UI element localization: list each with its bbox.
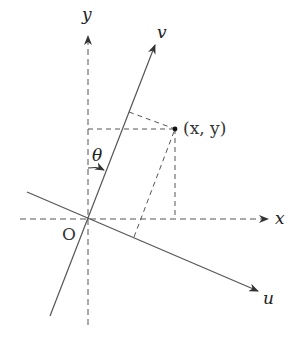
projection-lines [88,112,175,237]
point-label: (x, y) [183,118,226,138]
v-axis-label: v [157,22,167,42]
point-marker [173,127,178,132]
u-axis-label: u [263,288,274,308]
angle-arc [88,167,104,170]
proj-to-v-axis [129,112,175,129]
y-axis-label: y [81,4,92,24]
rotated-axes-diagram: y x v u (x, y) θ O [0,0,306,343]
x-axis-label: x [275,208,285,228]
proj-to-u-axis [134,129,175,237]
origin-label: O [62,224,76,244]
angle-label: θ [92,145,102,165]
v-axis [50,45,155,316]
